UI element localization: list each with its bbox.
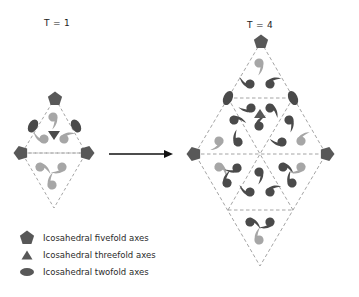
legend-item-threefold: Icosahedral threefold axes bbox=[18, 246, 156, 263]
t1-lattice bbox=[14, 92, 95, 209]
triangle-icon bbox=[18, 248, 36, 262]
twofold-ellipse-icon bbox=[26, 118, 41, 135]
legend-item-twofold: Icosahedral twofold axes bbox=[18, 263, 156, 280]
t4-lattice bbox=[187, 35, 335, 267]
legend-item-fivefold: Icosahedral fivefold axes bbox=[18, 229, 156, 246]
legend: Icosahedral fivefold axes Icosahedral th… bbox=[18, 229, 156, 280]
legend-label: Icosahedral twofold axes bbox=[43, 267, 149, 277]
threefold-triangle-icon bbox=[48, 131, 60, 140]
legend-label: Icosahedral threefold axes bbox=[43, 250, 156, 260]
t4-label: T = 4 bbox=[247, 20, 273, 30]
ellipse-icon bbox=[18, 265, 36, 279]
pentagon-icon bbox=[18, 231, 36, 245]
arrow-icon bbox=[109, 150, 173, 158]
twofold-ellipse-icon bbox=[69, 118, 84, 135]
legend-label: Icosahedral fivefold axes bbox=[43, 233, 149, 243]
t1-label: T = 1 bbox=[44, 18, 70, 28]
